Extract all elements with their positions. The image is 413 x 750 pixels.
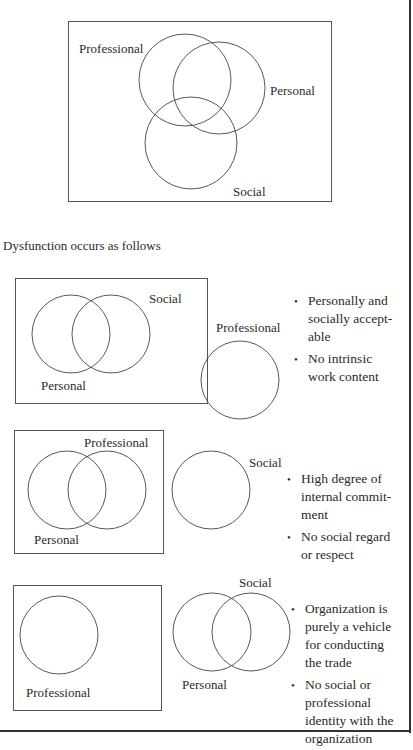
bullet-line: professional: [305, 694, 394, 712]
personal-label: Personal: [270, 83, 315, 98]
dysfunction-diagram-1: Social Personal Professional: [16, 279, 281, 420]
bullet-line: for conducting: [305, 636, 394, 654]
personal-label: Personal: [41, 378, 86, 393]
professional-circle: [201, 341, 279, 419]
bullet-icon: •: [294, 350, 298, 368]
bullet-line: organization: [305, 730, 394, 748]
bullet-item: • No intrinsic work content: [294, 350, 392, 386]
personal-circle: [32, 295, 110, 373]
bullet-icon: •: [287, 470, 291, 488]
professional-circle: [139, 34, 231, 126]
bullet-icon: •: [287, 528, 291, 546]
social-label: Social: [249, 455, 282, 470]
bullet-line: the trade: [305, 654, 394, 672]
personal-circle: [173, 42, 265, 134]
bullet-line: socially accept-: [308, 310, 392, 328]
bullet-line: Personally and: [308, 292, 392, 310]
dysfunction-diagram-2: Professional Personal Social: [15, 431, 282, 554]
intro-text: Dysfunction occurs as follows: [3, 238, 161, 254]
dysfunction-2-bullets: • High degree of internal commit- ment •…: [287, 470, 391, 568]
social-circle: [72, 295, 150, 373]
bullet-icon: •: [291, 676, 295, 694]
professional-label: Professional: [79, 41, 144, 56]
social-label: Social: [239, 575, 272, 590]
bullet-line: High degree of: [301, 470, 391, 488]
professional-label: Professional: [216, 320, 281, 335]
dysfunction-3-bullets: • Organization is purely a vehicle for c…: [291, 600, 394, 750]
professional-circle: [68, 451, 146, 529]
professional-circle: [20, 596, 98, 674]
bullet-line: No social or: [305, 676, 394, 694]
professional-label: Professional: [84, 435, 149, 450]
integrated-venn-diagram: Professional Personal Social: [69, 22, 332, 202]
bullet-item: • Organization is purely a vehicle for c…: [291, 600, 394, 672]
personal-label: Personal: [182, 677, 227, 692]
personal-circle: [28, 451, 106, 529]
bullet-line: ment: [301, 506, 391, 524]
bullet-line: No intrinsic: [308, 350, 392, 368]
dysfunction-1-bullets: • Personally and socially accept- able •…: [294, 292, 392, 390]
bullet-item: • High degree of internal commit- ment: [287, 470, 391, 524]
social-label: Social: [149, 291, 182, 306]
bullet-icon: •: [291, 600, 295, 618]
bullet-line: Organization is: [305, 600, 394, 618]
social-label: Social: [233, 184, 266, 199]
bullet-item: • Personally and socially accept- able: [294, 292, 392, 346]
bullet-line: purely a vehicle: [305, 618, 394, 636]
social-circle: [145, 97, 237, 189]
bullet-line: No social regard: [301, 528, 391, 546]
bullet-item: • No social regard or respect: [287, 528, 391, 564]
bullet-line: internal commit-: [301, 488, 391, 506]
social-circle: [172, 451, 250, 529]
bullet-line: identity with the: [305, 712, 394, 730]
professional-label: Professional: [26, 685, 91, 700]
bullet-line: work content: [308, 368, 392, 386]
personal-label: Personal: [34, 532, 79, 547]
dysfunction-diagram-3: Professional Personal Social: [14, 575, 291, 711]
bullet-icon: •: [294, 292, 298, 310]
bullet-line: able: [308, 328, 392, 346]
bullet-line: or respect: [301, 546, 391, 564]
bullet-item: • No social or professional identity wit…: [291, 676, 394, 748]
